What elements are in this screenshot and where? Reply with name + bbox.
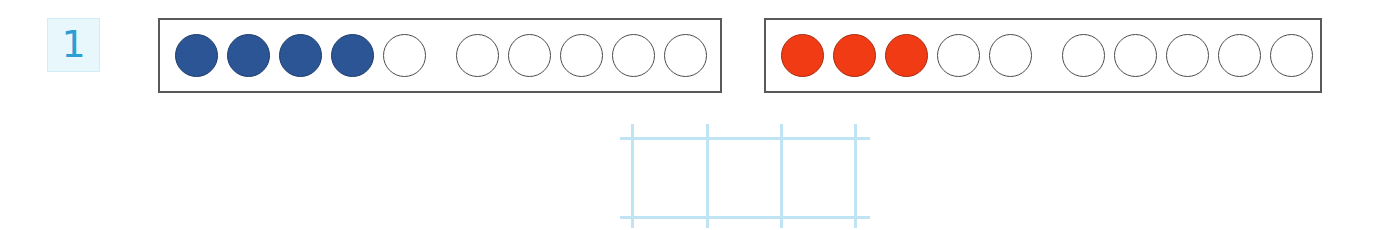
blue-ten-frame	[158, 18, 722, 93]
counter-filled[interactable]	[227, 34, 270, 77]
counter-empty[interactable]	[508, 34, 551, 77]
counter-empty[interactable]	[989, 34, 1032, 77]
counter-filled[interactable]	[175, 34, 218, 77]
blue-ten-frame-slots	[160, 20, 720, 91]
grid-vertical-line	[780, 124, 783, 228]
counter-empty[interactable]	[560, 34, 603, 77]
exercise-number-badge: 1	[47, 18, 100, 72]
answer-grid[interactable]	[620, 118, 876, 228]
counter-empty[interactable]	[1062, 34, 1105, 77]
counter-empty[interactable]	[1270, 34, 1313, 77]
counter-empty[interactable]	[1218, 34, 1261, 77]
counter-filled[interactable]	[279, 34, 322, 77]
counter-empty[interactable]	[1166, 34, 1209, 77]
counter-filled[interactable]	[833, 34, 876, 77]
grid-vertical-line	[631, 124, 634, 228]
counter-empty[interactable]	[383, 34, 426, 77]
grid-horizontal-line	[620, 216, 870, 219]
grid-horizontal-line	[620, 137, 870, 140]
grid-vertical-line	[706, 124, 709, 228]
counter-filled[interactable]	[885, 34, 928, 77]
counter-empty[interactable]	[664, 34, 707, 77]
counter-empty[interactable]	[1114, 34, 1157, 77]
counter-empty[interactable]	[937, 34, 980, 77]
counter-empty[interactable]	[612, 34, 655, 77]
grid-vertical-line	[854, 124, 857, 228]
counter-filled[interactable]	[781, 34, 824, 77]
red-ten-frame	[764, 18, 1322, 93]
red-ten-frame-slots	[766, 20, 1320, 91]
counter-filled[interactable]	[331, 34, 374, 77]
counter-empty[interactable]	[456, 34, 499, 77]
exercise-number-label: 1	[48, 25, 99, 63]
